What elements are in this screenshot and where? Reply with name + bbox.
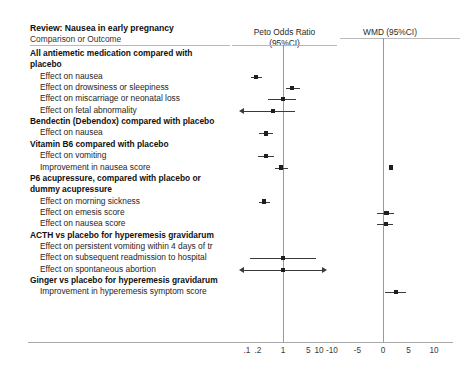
header-rule-left (30, 45, 230, 46)
forest-plot: Review: Nausea in early pregnancy Compar… (0, 0, 465, 373)
ci-arrow-left-icon (239, 267, 244, 273)
wmd-null-line (383, 38, 384, 342)
group-heading: P6 acupressure, compared with placebo or (30, 174, 201, 183)
group-heading: All antiemetic medication compared with (30, 49, 192, 58)
comparison-column-header: Comparison or Outcome (30, 35, 121, 44)
outcome-label: Effect on nausea score (40, 219, 126, 228)
peto-null-line (283, 45, 284, 342)
group-heading: placebo (30, 60, 62, 69)
ci-arrow-left-icon (239, 108, 244, 114)
effect-estimate-marker (271, 109, 275, 113)
effect-estimate-marker (394, 290, 398, 294)
effect-estimate-marker (281, 256, 285, 260)
header-rule-right (340, 38, 460, 39)
peto-column-header-line2: (95%CI) (232, 38, 337, 48)
wmd-axis-tick-label: 5 (397, 346, 421, 355)
wmd-axis-tick-label: 0 (371, 346, 395, 355)
review-title: Review: Nausea in early pregnancy (30, 24, 174, 33)
outcome-label: Effect on morning sickness (40, 197, 140, 206)
group-heading: Ginger vs placebo for hyperemesis gravid… (30, 276, 218, 285)
outcome-label: Effect on nausea (40, 128, 103, 137)
effect-estimate-marker (281, 97, 285, 101)
wmd-axis-tick-label: -5 (346, 346, 370, 355)
effect-estimate-marker (281, 268, 285, 272)
confidence-interval-line (244, 111, 295, 112)
wmd-axis-tick-label: -10 (320, 346, 344, 355)
effect-estimate-marker (264, 131, 268, 135)
outcome-label: Effect on spontaneous abortion (40, 265, 156, 274)
outcome-label: Effect on miscarriage or neonatal loss (40, 94, 180, 103)
header-rule-mid (232, 45, 337, 46)
outcome-label: Effect on drowsiness or sleepiness (40, 83, 169, 92)
effect-estimate-marker (279, 165, 283, 169)
effect-estimate-marker (389, 165, 393, 169)
ci-arrow-right-icon (322, 267, 327, 273)
effect-estimate-marker (290, 86, 294, 90)
group-heading: Bendectin (Debendox) compared with place… (30, 117, 214, 126)
axis-line (28, 342, 453, 343)
effect-estimate-marker (384, 211, 388, 215)
peto-axis-tick-label: .2 (246, 346, 270, 355)
effect-estimate-marker (384, 222, 388, 226)
outcome-label: Improvement in nausea score (40, 163, 150, 172)
peto-axis-tick-label: 1 (271, 346, 295, 355)
effect-estimate-marker (262, 199, 266, 203)
group-heading: Vitamin B6 compared with placebo (30, 140, 169, 149)
peto-column-header-line1: Peto Odds Ratio (232, 27, 337, 37)
group-heading: dummy acupressure (30, 185, 112, 194)
effect-estimate-marker (254, 75, 258, 79)
outcome-label: Improvement in hyperemesis symptom score (40, 287, 207, 296)
group-heading: ACTH vs placebo for hyperemesis gravidar… (30, 231, 214, 240)
outcome-label: Effect on nausea (40, 72, 103, 81)
outcome-label: Effect on emesis score (40, 208, 125, 217)
effect-estimate-marker (264, 154, 268, 158)
outcome-label: Effect on subsequent readmission to hosp… (40, 253, 207, 262)
outcome-label: Effect on vomiting (40, 151, 106, 160)
wmd-column-header: WMD (95%CI) (340, 27, 440, 37)
wmd-axis-tick-label: 10 (422, 346, 446, 355)
outcome-label: Effect on fetal abnormality (40, 106, 137, 115)
outcome-label: Effect on persistent vomiting within 4 d… (40, 242, 213, 251)
